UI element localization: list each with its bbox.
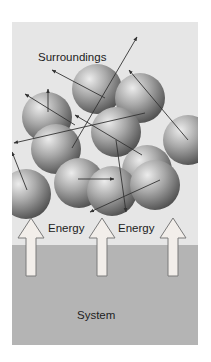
- surroundings-label: Surroundings: [38, 51, 106, 63]
- molecule-sphere: [130, 160, 180, 210]
- diagram-canvas: Surroundings Energy Energy System: [0, 0, 211, 362]
- molecule-sphere: [163, 115, 211, 165]
- molecule-sphere: [72, 64, 122, 114]
- molecule-sphere: [1, 169, 51, 219]
- energy-label-left: Energy: [48, 222, 84, 234]
- molecule-sphere: [87, 166, 137, 216]
- energy-label-right: Energy: [118, 222, 154, 234]
- system-label: System: [77, 309, 115, 321]
